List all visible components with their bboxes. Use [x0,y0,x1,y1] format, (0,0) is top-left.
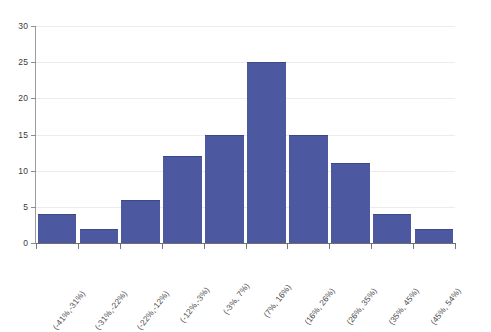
y-axis-tick [31,171,36,172]
y-axis-tick-label: 25 [18,57,28,67]
x-axis-category-label: (-41%,-31%) [51,289,87,332]
x-axis-category-label: (-31%,-22%) [93,289,129,332]
y-axis-tick-label: 0 [23,238,28,248]
bar [121,200,160,243]
x-axis-label-anchor: (45%, 54%) [439,252,440,253]
x-axis-category-label: (45%, 54%) [429,287,463,327]
bar [205,135,244,244]
x-axis-tick [329,244,330,249]
x-axis-tick [455,244,456,249]
x-axis-tick [287,244,288,249]
bar [331,163,370,243]
y-axis-tick-label: 5 [23,202,28,212]
y-axis-tick [31,243,36,244]
gridline [36,171,455,172]
y-axis-tick [31,62,36,63]
y-axis-tick-labels: 051015202530 [0,0,28,310]
y-axis-tick-label: 30 [18,21,28,31]
x-axis-label-anchor: (-22%,-12%) [146,252,147,253]
gridline [36,207,455,208]
x-axis-tick [371,244,372,249]
y-axis-tick [31,98,36,99]
x-axis-category-label: (-22%,-12%) [135,289,171,332]
y-axis-tick-label: 15 [18,130,28,140]
x-axis-label-anchor: (26%, 35%) [355,252,356,253]
x-axis-label-anchor: (-41%,-31%) [62,252,63,253]
plot-area [36,26,455,243]
y-axis-tick-label: 10 [18,166,28,176]
bar [38,214,77,243]
x-axis-label-anchor: (7%, 16%) [271,252,272,253]
x-axis-tick [204,244,205,249]
x-axis-label-anchor: (-12%,-3%) [188,252,189,253]
x-axis-category-label: (26%, 35%) [345,287,379,327]
bar [80,229,119,243]
gridline [36,62,455,63]
y-axis-tick [31,135,36,136]
x-axis-category-label: (35%, 45%) [387,287,421,327]
x-axis-label-anchor: (-31%,-22%) [104,252,105,253]
x-axis-tick [246,244,247,249]
x-axis-tick [36,244,37,249]
bar [163,156,202,243]
gridline [36,135,455,136]
x-axis-category-label: (16%, 26%) [303,287,337,327]
x-axis-label-anchor: (-3%, 7%) [230,252,231,253]
gridline [36,26,455,27]
x-axis-label-anchor: (16%, 26%) [313,252,314,253]
gridline [36,98,455,99]
x-axis-tick [78,244,79,249]
x-axis-label-anchor: (35%, 45%) [397,252,398,253]
y-axis-tick [31,207,36,208]
bar [289,135,328,244]
x-axis-tick [120,244,121,249]
x-axis-tick [162,244,163,249]
y-axis-tick-label: 20 [18,93,28,103]
x-axis-category-label: (-12%,-3%) [178,285,211,324]
bar [247,62,286,243]
x-axis-category-label: (-3%, 7%) [221,281,251,316]
x-axis-tick [413,244,414,249]
x-axis-category-label: (7%, 16%) [262,283,293,319]
y-axis-tick [31,26,36,27]
bar [373,214,412,243]
bar [415,229,454,243]
